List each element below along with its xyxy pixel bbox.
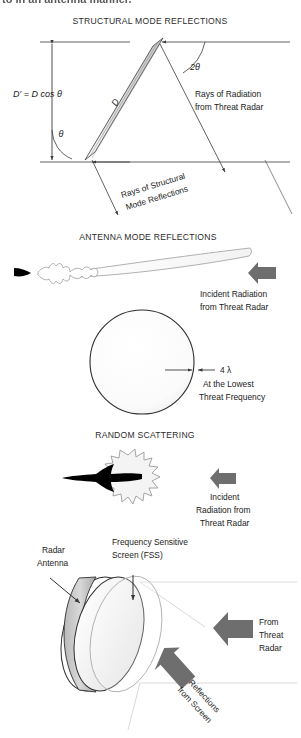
panel-antenna-mode: ANTENNA MODE REFLECTIONS Incident Radiat… [14,232,276,312]
incident-ray-label-line1: Rays of Radiation [195,89,261,99]
wavelength-label: 4 λ [220,365,232,375]
two-theta-label: 2θ [189,62,200,72]
fss-cone-line-lower [128,683,140,730]
panel-heading-antenna: ANTENNA MODE REFLECTIONS [79,232,216,242]
theta-label: θ [59,129,64,139]
radar-cross-section-figure: STRUCTURAL MODE REFLECTIONS D′ = D cos θ… [0,0,301,738]
antenna-incident-label-line1: Incident Radiation [200,289,267,299]
random-incident-label-line3: Threat Radar [200,518,250,528]
dprime-label: D′ = D cos θ [13,89,62,99]
antenna-lobe [78,248,251,277]
panel-structural-mode: STRUCTURAL MODE REFLECTIONS D′ = D cos θ… [13,16,292,215]
incident-arrow-random [210,468,236,489]
sphere-shape [90,310,194,414]
from-threat-radar-arrow [213,612,253,646]
sphere-condition-line1: At the Lowest [203,379,254,389]
panel-random-scattering: RANDOM SCATTERING Incident Radiation fro… [62,430,250,528]
fss-label-line2: Screen (FSS) [112,550,163,560]
structural-plate [85,38,163,160]
specular-ray-down-3 [265,160,292,214]
from-threat-label-line1: From [259,617,279,627]
incident-arrow-antenna [248,262,276,284]
antenna-incident-label-line2: from Threat Radar [200,302,268,312]
radar-antenna-label-line1: Radar [42,545,65,555]
random-incident-label-line1: Incident [210,492,240,502]
aircraft-outline-antenna [14,264,98,284]
fss-label-line1: Frequency Sensitive [112,537,188,547]
incident-ray-label-line2: from Threat Radar [195,102,263,112]
sphere-condition-line2: Threat Frequency [199,392,266,402]
panel-sphere-criterion: 4 λ At the Lowest Threat Frequency [90,310,266,414]
specular-ray-down-2 [92,160,118,215]
from-threat-label-line3: Radar [259,643,282,653]
random-incident-label-line2: Radiation from [196,505,250,515]
panel-fss-antenna: Radar Antenna Frequency Sensitive Screen… [37,537,297,730]
radar-antenna-label-line2: Antenna [37,558,69,568]
panel-heading-structural: STRUCTURAL MODE REFLECTIONS [73,16,228,26]
reflection-ray-label: Rays of Structural Mode Reflections [120,171,191,212]
from-threat-label-line2: Threat [259,630,284,640]
panel-heading-random: RANDOM SCATTERING [95,430,195,440]
